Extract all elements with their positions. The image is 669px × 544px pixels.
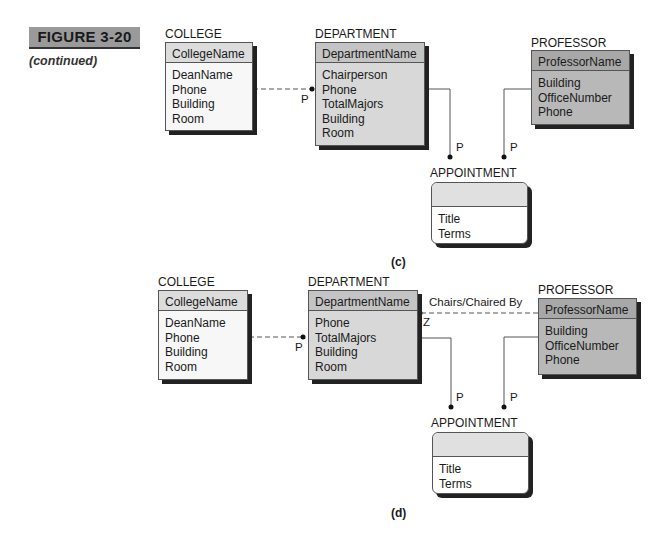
c-college-label: COLLEGE <box>165 27 222 41</box>
c-dept-appt-line <box>424 89 450 157</box>
d-college-attrs: DeanName Phone Building Room <box>159 311 247 379</box>
d-appt-attrs: Title Terms <box>433 457 528 496</box>
c-appt-entity: Title Terms <box>431 182 528 244</box>
d-prof-key: ProfessorName <box>539 299 636 319</box>
d-dept-label: DEPARTMENT <box>308 275 390 289</box>
c-caption: (c) <box>391 255 406 269</box>
c-prof-key: ProfessorName <box>532 51 629 71</box>
d-appt-label: APPOINTMENT <box>431 416 518 430</box>
c-dept-entity: DepartmentName Chairperson Phone TotalMa… <box>315 42 425 146</box>
c-college-attrs: DeanName Phone Building Room <box>166 63 252 131</box>
d-college-key: CollegeName <box>159 291 247 311</box>
c-college-key: CollegeName <box>166 43 252 63</box>
d-college-label: COLLEGE <box>158 275 215 289</box>
c-prof-label: PROFESSOR <box>531 36 606 50</box>
c-prof-appt-card: P <box>510 141 518 153</box>
c-appt-key <box>432 183 527 207</box>
d-dept-attrs: Phone TotalMajors Building Room <box>309 311 417 379</box>
d-dept-appt-card: P <box>456 391 464 403</box>
c-dept-label: DEPARTMENT <box>315 27 397 41</box>
c-prof-appt-line <box>504 89 532 157</box>
c-appt-attrs: Title Terms <box>432 207 527 246</box>
c-dot <box>310 87 315 92</box>
d-dept-key: DepartmentName <box>309 291 417 311</box>
d-appt-key <box>433 433 528 457</box>
d-college-dept-card: P <box>295 341 303 353</box>
d-dept-appt-line <box>418 338 451 407</box>
c-appt-label: APPOINTMENT <box>430 166 517 180</box>
c-prof-attrs: Building OfficeNumber Phone <box>532 71 629 125</box>
c-dept-attrs: Chairperson Phone TotalMajors Building R… <box>316 63 424 146</box>
d-prof-label: PROFESSOR <box>538 283 613 297</box>
c-prof-entity: ProfessorName Building OfficeNumber Phon… <box>531 50 630 125</box>
c-dept-appt-card: P <box>456 141 464 153</box>
d-prof-appt-card: P <box>510 391 518 403</box>
d-chairs-label: Chairs/Chaired By <box>429 296 522 308</box>
c-college-dept-card: P <box>301 93 309 105</box>
d-prof-entity: ProfessorName Building OfficeNumber Phon… <box>538 298 637 375</box>
d-dept-entity: DepartmentName Phone TotalMajors Buildin… <box>308 290 418 380</box>
d-chairs-card: Z <box>423 316 430 328</box>
c-college-entity: CollegeName DeanName Phone Building Room <box>165 42 253 131</box>
d-college-entity: CollegeName DeanName Phone Building Room <box>158 290 248 380</box>
d-appt-entity: Title Terms <box>432 432 529 494</box>
c-dept-key: DepartmentName <box>316 43 424 63</box>
d-caption: (d) <box>391 506 406 520</box>
d-prof-attrs: Building OfficeNumber Phone <box>539 319 636 373</box>
